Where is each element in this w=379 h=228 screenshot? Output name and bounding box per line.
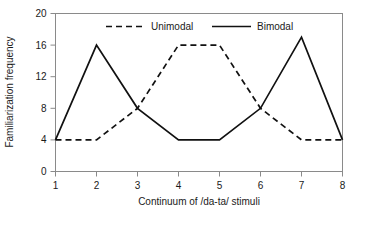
chart-figure: 048121620 12345678 Unimodal Bimodal Cont…	[0, 0, 379, 228]
legend-label-unimodal: Unimodal	[151, 21, 193, 32]
y-axis-ticks	[51, 14, 56, 172]
x-axis-tick-label: 8	[340, 180, 346, 191]
x-axis-tick-label: 4	[176, 180, 182, 191]
x-axis-tick-label: 6	[258, 180, 264, 191]
line-chart: 048121620 12345678 Unimodal Bimodal Cont…	[0, 0, 379, 228]
x-axis-tick-label: 7	[299, 180, 305, 191]
y-axis-tick-label: 4	[41, 134, 47, 145]
y-axis-tick-label: 20	[35, 8, 47, 19]
y-axis-tick-label: 8	[41, 103, 47, 114]
y-axis-tick-label: 16	[35, 40, 47, 51]
chart-legend: Unimodal Bimodal	[106, 21, 293, 32]
y-axis-tick-label: 12	[35, 71, 47, 82]
legend-label-bimodal: Bimodal	[257, 21, 293, 32]
y-axis-title: Familiarization frequency	[4, 36, 15, 147]
plot-frame	[56, 14, 343, 172]
x-axis-tick-label: 2	[94, 180, 100, 191]
x-axis-title: Continuum of /da-ta/ stimuli	[138, 196, 260, 207]
x-axis-ticks	[56, 172, 343, 177]
y-axis-tick-labels: 048121620	[35, 8, 47, 177]
x-axis-tick-labels: 12345678	[53, 180, 346, 191]
series-line-bimodal	[56, 37, 343, 140]
x-axis-tick-label: 3	[135, 180, 141, 191]
y-axis-tick-label: 0	[41, 166, 47, 177]
x-axis-tick-label: 1	[53, 180, 59, 191]
series-line-unimodal	[56, 45, 343, 140]
x-axis-tick-label: 5	[217, 180, 223, 191]
